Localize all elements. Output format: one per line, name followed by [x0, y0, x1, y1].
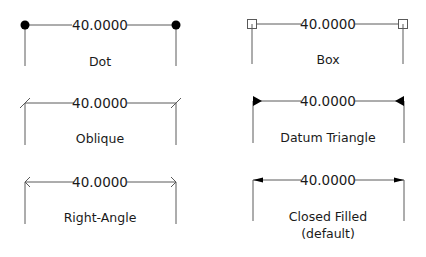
style-label: Right-Angle: [64, 210, 137, 225]
dimension-value: 40.0000: [72, 95, 128, 111]
dimension-datum-triangle: 40.0000 Datum Triangle: [253, 93, 404, 145]
style-label: Dot: [89, 54, 111, 69]
dimension-oblique: 40.0000 Oblique: [20, 95, 181, 146]
arrowhead-styles-diagram: 40.0000 Dot 40.0000 Box 40.0000 Oblique …: [0, 0, 426, 257]
dot-arrowhead-icon: [21, 21, 30, 30]
dimension-value: 40.0000: [300, 16, 356, 32]
dimension-value: 40.0000: [300, 172, 356, 188]
closed-filled-arrowhead-icon: [253, 178, 263, 183]
dimension-dot: 40.0000 Dot: [21, 17, 181, 69]
dimension-value: 40.0000: [300, 93, 356, 109]
style-label: Box: [316, 52, 339, 67]
dimension-value: 40.0000: [72, 17, 128, 33]
dimension-closed-filled: 40.0000 Closed Filled (default): [253, 172, 404, 241]
dimension-value: 40.0000: [72, 174, 128, 190]
dot-arrowhead-icon: [172, 21, 181, 30]
dimension-box: 40.0000 Box: [248, 16, 408, 67]
dimension-right-angle: 40.0000 Right-Angle: [25, 174, 176, 225]
style-label: Datum Triangle: [280, 130, 376, 145]
style-label: Closed Filled: [289, 209, 367, 224]
style-label-note: (default): [301, 226, 355, 241]
datum-triangle-arrowhead-icon: [395, 96, 404, 106]
datum-triangle-arrowhead-icon: [253, 96, 262, 106]
style-label: Oblique: [76, 131, 125, 146]
closed-filled-arrowhead-icon: [394, 178, 404, 183]
